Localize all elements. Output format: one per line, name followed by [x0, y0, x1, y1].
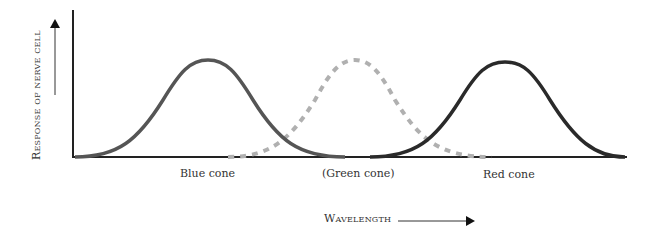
y-axis-label: Response of nerve cell — [30, 30, 43, 160]
green-cone-label: (Green cone) — [322, 167, 395, 180]
red-cone-curve — [370, 62, 625, 157]
right-arrow-icon — [398, 216, 475, 226]
blue-cone-curve — [75, 60, 345, 157]
blue-cone-label: Blue cone — [180, 167, 235, 180]
cone-response-diagram — [0, 0, 659, 230]
up-arrow-icon — [50, 19, 60, 95]
red-cone-label: Red cone — [483, 168, 535, 181]
x-axis-label: Wavelength — [324, 212, 391, 225]
